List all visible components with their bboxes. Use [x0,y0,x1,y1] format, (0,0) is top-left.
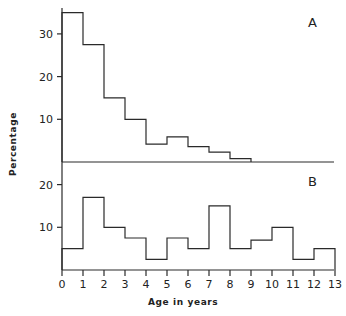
x-tick-label: 3 [122,278,129,291]
panel-a-histogram [62,13,251,162]
x-tick-label: 12 [307,278,321,291]
x-tick-label: 13 [328,278,342,291]
panel-a: 102030 A [39,8,334,162]
x-tick-label: 2 [101,278,108,291]
x-tick-label: 10 [265,278,279,291]
y-tick-label: 10 [39,113,53,126]
x-tick-label: 7 [206,278,213,291]
x-tick-label: 6 [185,278,192,291]
panel-a-y-ticks: 102030 [39,28,62,126]
x-tick-label: 1 [80,278,87,291]
histogram-figure: 102030 A 1020 012345678910111213 B Perce… [0,0,346,316]
x-tick-label: 4 [143,278,150,291]
y-tick-label: 10 [39,221,53,234]
y-tick-label: 20 [39,71,53,84]
panel-b-y-ticks: 1020 [39,179,62,235]
x-ticks: 012345678910111213 [59,270,343,291]
panel-b: 1020 012345678910111213 B [39,162,342,291]
y-tick-label: 30 [39,28,53,41]
y-axis-title: Percentage [8,112,18,176]
x-tick-label: 0 [59,278,66,291]
x-tick-label: 11 [286,278,300,291]
x-axis-title: Age in years [148,297,218,307]
x-tick-label: 5 [164,278,171,291]
panel-a-label: A [308,15,317,30]
panel-b-histogram [62,197,335,270]
y-tick-label: 20 [39,179,53,192]
x-tick-label: 8 [227,278,234,291]
panel-b-label: B [308,174,317,189]
x-tick-label: 9 [248,278,255,291]
